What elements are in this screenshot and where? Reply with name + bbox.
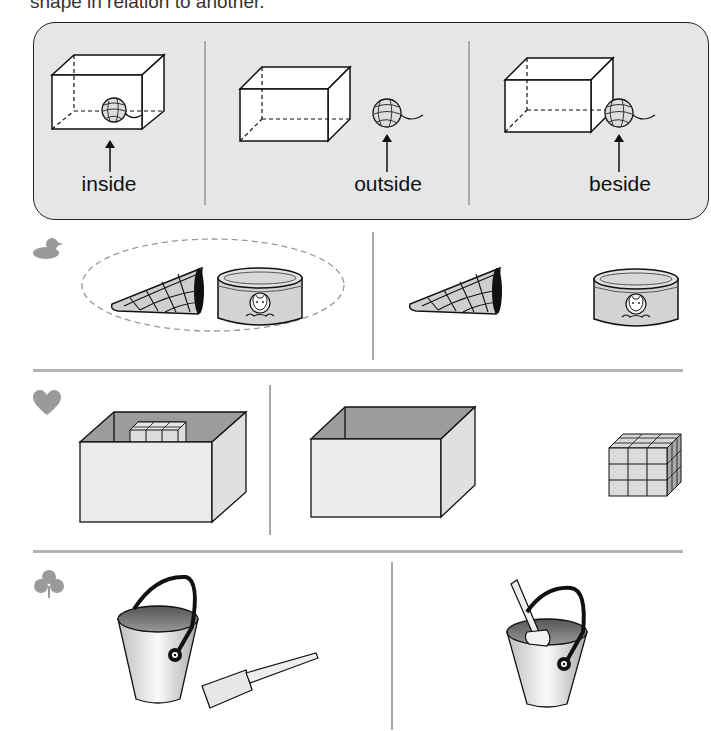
bucket-with-shovel-illustration[interactable] [505,580,595,710]
block-cube-icon [130,422,186,442]
example-inside-illustration [52,55,172,135]
box-with-yarn-inside-icon [52,55,172,135]
open-box-illustration[interactable] [311,407,477,519]
yarn-ball-icon [603,97,663,131]
column-divider [269,385,271,535]
duck-icon [32,236,64,260]
label-inside: inside [78,172,140,196]
cat-food-can-icon[interactable] [592,267,680,331]
row-divider [33,550,683,553]
label-outside: outside [350,172,426,196]
open-box-with-cube-illustration[interactable] [80,412,250,524]
example-beside-illustration [505,58,615,134]
example-outside-illustration [240,67,352,143]
column-divider [372,232,374,360]
ice-cream-cone-icon[interactable] [110,264,206,316]
box-icon [240,67,352,143]
arrow-up-icon [382,134,392,172]
bucket-icon[interactable] [116,577,206,707]
panel-divider [468,41,470,205]
club-icon [34,569,64,599]
column-divider [391,562,393,730]
yarn-ball-icon [371,97,431,131]
block-cube-icon[interactable] [609,434,683,498]
panel-divider [204,41,206,205]
ice-cream-cone-icon[interactable] [408,264,504,316]
row-divider [33,369,683,372]
heart-icon [33,390,61,416]
shovel-icon[interactable] [202,653,322,713]
label-beside: beside [588,172,652,196]
arrow-up-icon [614,134,624,172]
cat-food-can-icon[interactable] [216,266,304,330]
arrow-up-icon [105,140,115,172]
box-icon [505,58,615,134]
instruction-heading: shape in relation to another. [30,0,265,13]
